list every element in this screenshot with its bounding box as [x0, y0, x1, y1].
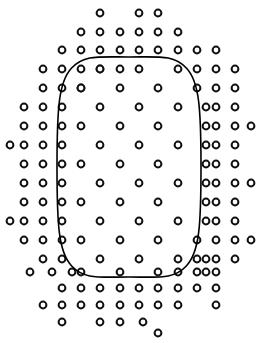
surround-dot: [78, 302, 85, 309]
surround-dot: [136, 10, 143, 17]
surround-dot: [140, 319, 147, 326]
surround-dot: [175, 47, 182, 54]
interior-dot: [78, 237, 85, 244]
surround-dot: [175, 285, 182, 292]
interior-dot: [155, 85, 162, 92]
interior-dot: [136, 66, 143, 73]
surround-dot: [203, 199, 210, 206]
interior-dot: [97, 142, 104, 149]
surround-dot: [97, 302, 104, 309]
surround-dot: [232, 180, 239, 187]
surround-dot: [203, 269, 210, 276]
surround-dot: [117, 319, 124, 326]
surround-dot: [194, 256, 201, 263]
interior-dot: [117, 123, 124, 130]
surround-dot: [7, 142, 14, 149]
surround-dot: [117, 66, 124, 73]
surround-dot: [117, 285, 124, 292]
interior-dot: [136, 104, 143, 111]
surround-dot: [40, 142, 47, 149]
surround-dot: [248, 123, 255, 130]
surround-dot: [194, 285, 201, 292]
interior-dot: [155, 269, 162, 276]
interior-dot: [175, 104, 182, 111]
interior-dot: [117, 161, 124, 168]
interior-dot: [136, 218, 143, 225]
surround-dot: [40, 180, 47, 187]
interior-dot: [97, 218, 104, 225]
surround-dot: [213, 161, 220, 168]
surround-dot: [21, 123, 28, 130]
surround-dot: [203, 218, 210, 225]
surround-dot: [59, 161, 66, 168]
surround-dot: [21, 104, 28, 111]
interior-dot: [78, 123, 85, 130]
interior-dot: [97, 104, 104, 111]
surround-dot: [59, 123, 66, 130]
surround-dot: [59, 180, 66, 187]
surround-dot: [213, 218, 220, 225]
surround-dot: [175, 29, 182, 36]
interior-dot: [97, 256, 104, 263]
surround-dot: [213, 269, 220, 276]
interior-dot: [117, 269, 124, 276]
surround-dot: [175, 66, 182, 73]
surround-dot: [40, 218, 47, 225]
surround-dot: [213, 302, 220, 309]
interior-dot: [175, 142, 182, 149]
surround-dot: [232, 123, 239, 130]
surround-dot: [248, 237, 255, 244]
surround-dot: [213, 104, 220, 111]
surround-dot: [203, 256, 210, 263]
surround-dot: [213, 180, 220, 187]
surround-dot: [155, 302, 162, 309]
surround-dot: [117, 302, 124, 309]
surround-dot: [155, 10, 162, 17]
surround-dot: [194, 269, 201, 276]
surround-dot: [232, 199, 239, 206]
surround-dot: [40, 302, 47, 309]
surround-dot: [194, 66, 201, 73]
surround-dot: [40, 256, 47, 263]
interior-dot: [136, 256, 143, 263]
surround-dot: [232, 104, 239, 111]
surround-dot: [59, 256, 66, 263]
interior-dot: [155, 199, 162, 206]
surround-dot: [117, 29, 124, 36]
surround-dot: [40, 123, 47, 130]
surround-dot: [59, 142, 66, 149]
surround-dot: [21, 161, 28, 168]
surround-dot: [213, 237, 220, 244]
stimulus-canvas: [0, 0, 258, 343]
surround-dot: [155, 330, 162, 337]
surround-dot: [232, 218, 239, 225]
surround-dot: [21, 199, 28, 206]
surround-dot: [203, 104, 210, 111]
surround-dot: [175, 302, 182, 309]
surround-dot: [40, 161, 47, 168]
surround-dot: [136, 47, 143, 54]
interior-dot: [175, 256, 182, 263]
surround-dot: [117, 47, 124, 54]
surround-dot: [213, 66, 220, 73]
surround-dot: [49, 269, 56, 276]
surround-dot: [40, 199, 47, 206]
interior-dot: [155, 237, 162, 244]
surround-dot: [213, 199, 220, 206]
surround-dot: [213, 85, 220, 92]
surround-dot: [213, 256, 220, 263]
surround-dot: [97, 285, 104, 292]
surround-dot: [136, 285, 143, 292]
surround-dot: [78, 66, 85, 73]
surround-dot: [59, 47, 66, 54]
surround-dot: [59, 218, 66, 225]
surround-dot: [155, 29, 162, 36]
surround-dot: [155, 47, 162, 54]
surround-dot: [78, 47, 85, 54]
interior-dot: [155, 123, 162, 130]
surround-dot: [155, 285, 162, 292]
interior-dot: [175, 218, 182, 225]
stimulus-figure: [0, 0, 258, 343]
surround-dot: [232, 237, 239, 244]
surround-dot: [69, 269, 76, 276]
